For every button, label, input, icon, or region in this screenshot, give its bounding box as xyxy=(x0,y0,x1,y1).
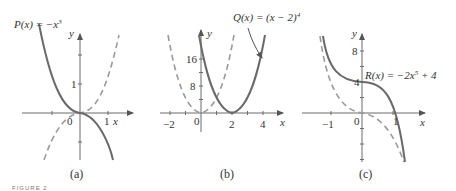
function-label-Q: Q(x) = (x − 2)4 xyxy=(233,11,301,24)
panel-c: −1 0 1 4 8 x y R(x) = −2x5 + 4 (c) xyxy=(302,27,437,181)
y-tick-8: 8 xyxy=(190,80,196,92)
y-axis-label: y xyxy=(206,27,212,39)
y-tick-16: 16 xyxy=(186,53,198,65)
panel-b: −2 0 2 4 8 16 x y Q(x) = (x − 2)4 (b) xyxy=(160,11,301,181)
function-label-R: R(x) = −2x5 + 4 xyxy=(364,69,437,82)
pointer-arrow xyxy=(248,28,262,58)
caption-a: (a) xyxy=(70,167,83,181)
x-tick-0: 0 xyxy=(194,115,200,127)
y-axis-label: y xyxy=(351,27,357,39)
x-axis-label: x xyxy=(419,116,425,128)
y-tick-8: 8 xyxy=(352,45,358,57)
figure: 0 1 1 x y P(x) = −x3 (a) −2 0 2 4 8 16 x… xyxy=(0,0,456,191)
y-tick-4: 4 xyxy=(354,76,360,88)
x-tick-0: 0 xyxy=(67,115,73,127)
caption-c: (c) xyxy=(359,167,372,181)
x-tick-neg1: −1 xyxy=(322,118,334,130)
solid-curve-R xyxy=(323,36,405,162)
x-axis-label: x xyxy=(279,116,285,128)
x-tick-1: 1 xyxy=(104,115,110,127)
x-tick-2: 2 xyxy=(229,118,235,130)
x-tick-0: 0 xyxy=(354,115,360,127)
x-axis-label: x xyxy=(112,115,118,127)
function-label-P: P(x) = −x3 xyxy=(13,18,62,31)
x-tick-1: 1 xyxy=(393,115,399,127)
panel-a: 0 1 1 x y P(x) = −x3 (a) xyxy=(13,18,133,181)
y-tick-1: 1 xyxy=(71,78,77,90)
x-tick-neg2: −2 xyxy=(163,118,175,130)
figure-label: FIGURE 2 xyxy=(12,185,48,191)
caption-b: (b) xyxy=(220,167,234,181)
y-axis-label: y xyxy=(68,27,74,39)
x-tick-4: 4 xyxy=(260,118,266,130)
